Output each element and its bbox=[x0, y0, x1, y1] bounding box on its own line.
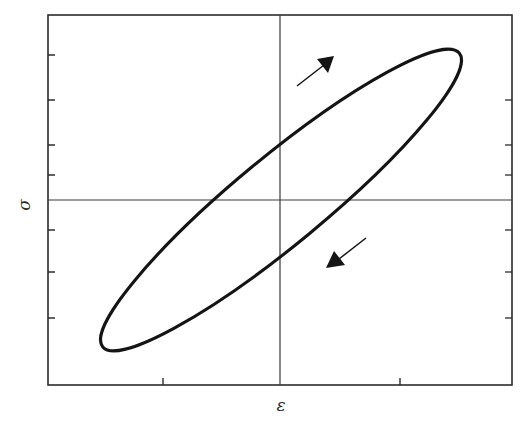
hysteresis-loop-figure: σ ε bbox=[0, 0, 523, 427]
sigma-epsilon-plot: σ ε bbox=[0, 0, 523, 427]
x-axis-label: ε bbox=[276, 395, 285, 415]
y-axis-label: σ bbox=[14, 199, 34, 211]
figure-background bbox=[0, 0, 523, 427]
